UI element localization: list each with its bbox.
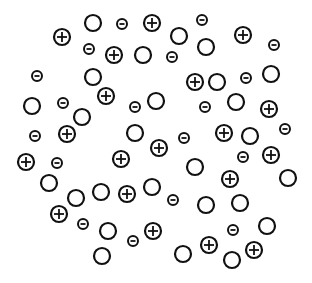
negative-charge-icon [238,152,248,162]
positive-charge-icon [113,151,129,167]
positive-charge-icon [261,101,277,117]
positive-charge-icon [98,88,114,104]
positive-charge-icon [201,237,217,253]
neutral-particle-icon [242,128,258,144]
neutral-particle-icon [198,39,214,55]
neutral-particle-icon [209,74,225,90]
neutral-particle-icon [135,47,151,63]
negative-charge-icon [32,71,42,81]
neutral-particle-icon [228,94,244,110]
neutral-particle-icon [171,28,187,44]
particle-diagram [0,0,312,283]
negative-charge-icon [52,158,62,168]
neutral-particle-icon [187,159,203,175]
positive-charge-icon [235,27,251,43]
positive-charge-icon [187,74,203,90]
positive-charge-icon [119,186,135,202]
negative-charge-icon [78,219,88,229]
neutral-particle-icon [93,184,109,200]
neutral-particle-icon [148,93,164,109]
negative-charge-icon [84,44,94,54]
neutral-particle-icon [41,175,57,191]
neutral-particle-icon [263,66,279,82]
neutral-particle-icon [68,190,84,206]
positive-charge-icon [246,242,262,258]
negative-charge-icon [197,15,207,25]
negative-charge-icon [200,102,210,112]
neutral-particle-icon [144,179,160,195]
neutral-particle-icon [24,98,40,114]
neutral-particle-icon [85,69,101,85]
negative-charge-icon [58,98,68,108]
positive-charge-icon [222,171,238,187]
negative-charge-icon [228,225,238,235]
neutral-particle-icon [85,15,101,31]
positive-charge-icon [216,125,232,141]
positive-charge-icon [263,147,279,163]
neutral-particle-icon [175,246,191,262]
positive-charge-icon [144,15,160,31]
neutral-particle-icon [94,248,110,264]
neutral-particle-icon [280,170,296,186]
positive-charge-icon [106,47,122,63]
negative-charge-icon [168,195,178,205]
positive-charge-icon [145,223,161,239]
neutral-particle-icon [100,223,116,239]
negative-charge-icon [179,133,189,143]
positive-charge-icon [51,206,67,222]
negative-charge-icon [128,236,138,246]
positive-charge-icon [18,154,34,170]
negative-charge-icon [167,52,177,62]
positive-charge-icon [151,140,167,156]
positive-charge-icon [59,126,75,142]
neutral-particle-icon [127,125,143,141]
negative-charge-icon [241,73,251,83]
positive-charge-icon [54,29,70,45]
negative-charge-icon [280,124,290,134]
neutral-particle-icon [74,109,90,125]
neutral-particle-icon [198,197,214,213]
neutral-particle-icon [259,218,275,234]
neutral-particle-icon [232,195,248,211]
negative-charge-icon [117,19,127,29]
negative-charge-icon [30,131,40,141]
negative-charge-icon [269,40,279,50]
negative-charge-icon [130,102,140,112]
neutral-particle-icon [224,252,240,268]
